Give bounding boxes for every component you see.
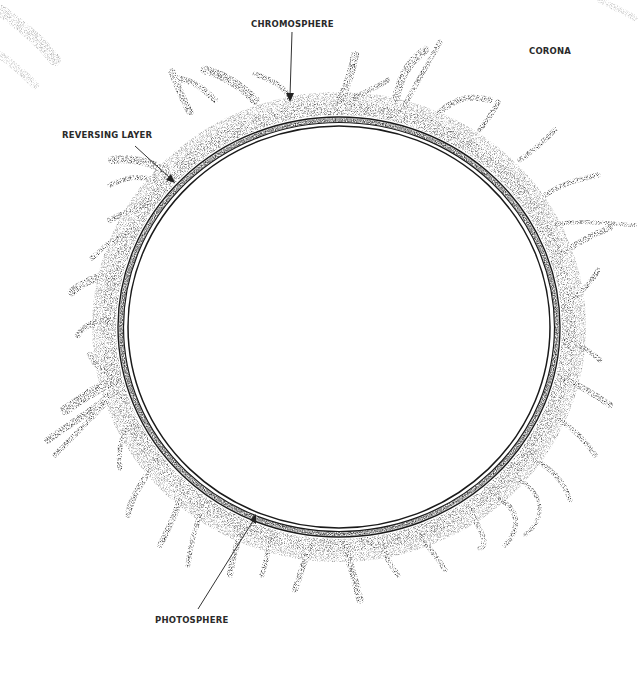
chromosphere-label: CHROMOSPHERE bbox=[251, 19, 334, 29]
photosphere-disk bbox=[128, 126, 550, 528]
photosphere-label: PHOTOSPHERE bbox=[155, 615, 228, 625]
sun-layers-diagram bbox=[0, 0, 641, 674]
corona-label: CORONA bbox=[529, 46, 571, 56]
reversing-layer-label: REVERSING LAYER bbox=[62, 130, 152, 140]
